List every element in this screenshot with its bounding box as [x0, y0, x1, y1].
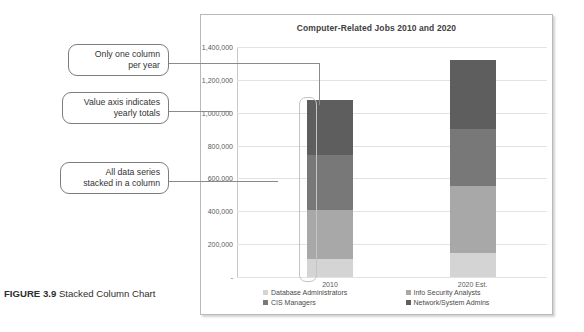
- stack-segment[interactable]: [307, 155, 353, 210]
- gridline: [237, 80, 547, 81]
- stack-segment[interactable]: [450, 186, 496, 253]
- legend-swatch: [406, 290, 411, 295]
- gridline: [237, 146, 547, 147]
- callout-1-line-2: per year: [75, 60, 160, 71]
- y-axis-tick-label: 1,400,000: [202, 44, 233, 51]
- x-axis-category-label: 2010: [322, 281, 338, 288]
- gridline: [237, 47, 547, 48]
- plot-area[interactable]: -200,000400,000600,000800,0001,000,0001,…: [237, 47, 547, 277]
- y-axis-tick-label: 200,000: [208, 241, 233, 248]
- column-2020[interactable]: [450, 60, 496, 277]
- legend-label: Network/System Admins: [414, 299, 490, 306]
- callout-3-line-2: stacked in a column: [67, 178, 160, 189]
- legend-item[interactable]: Info Security Analysts: [406, 289, 545, 296]
- chart-panel[interactable]: Computer-Related Jobs 2010 and 2020 -200…: [200, 14, 553, 315]
- stack-segment[interactable]: [307, 100, 353, 155]
- y-axis-tick-label: 400,000: [208, 208, 233, 215]
- column-2010[interactable]: [307, 100, 353, 277]
- leader-line-2: [168, 111, 230, 112]
- legend-item[interactable]: Network/System Admins: [406, 299, 545, 306]
- gridline: [237, 178, 547, 179]
- legend-swatch: [263, 300, 268, 305]
- legend-item[interactable]: Database Administrators: [263, 289, 402, 296]
- figure-caption-text: Stacked Column Chart: [59, 288, 156, 299]
- callout-2-line-2: yearly totals: [69, 108, 160, 119]
- callout-data-series-stacked: All data series stacked in a column: [60, 162, 169, 194]
- callout-3-line-1: All data series: [67, 167, 160, 178]
- x-axis-category-label: 2020 Est.: [458, 281, 488, 288]
- leader-line-3: [168, 181, 278, 182]
- legend-swatch: [406, 300, 411, 305]
- gridline: [237, 244, 547, 245]
- figure-label: FIGURE 3.9: [4, 288, 59, 299]
- chart-legend[interactable]: Database AdministratorsInfo Security Ana…: [237, 289, 544, 306]
- callout-value-axis: Value axis indicates yearly totals: [62, 92, 169, 124]
- stack-segment[interactable]: [307, 210, 353, 259]
- stack-segment[interactable]: [450, 60, 496, 129]
- callout-only-one-column: Only one column per year: [68, 44, 169, 76]
- stack-segment[interactable]: [450, 129, 496, 186]
- legend-label: CIS Managers: [271, 299, 316, 306]
- gridline: [237, 277, 547, 278]
- leader-line-1: [168, 63, 320, 64]
- gridline: [237, 113, 547, 114]
- gridline: [237, 211, 547, 212]
- callout-2-line-1: Value axis indicates: [69, 97, 160, 108]
- stack-segment[interactable]: [307, 259, 353, 277]
- figure-page: Computer-Related Jobs 2010 and 2020 -200…: [0, 0, 584, 332]
- legend-item[interactable]: CIS Managers: [263, 299, 402, 306]
- legend-swatch: [263, 290, 268, 295]
- y-axis-tick-label: 1,200,000: [202, 76, 233, 83]
- y-axis-tick-label: -: [231, 274, 233, 281]
- value-axis-line: [237, 47, 238, 277]
- y-axis-tick-label: 800,000: [208, 142, 233, 149]
- legend-label: Info Security Analysts: [414, 289, 481, 296]
- figure-caption: FIGURE 3.9 Stacked Column Chart: [4, 288, 184, 301]
- chart-title: Computer-Related Jobs 2010 and 2020: [201, 23, 552, 33]
- leader-line-1-vertical: [319, 63, 320, 105]
- stack-segment[interactable]: [450, 253, 496, 277]
- legend-label: Database Administrators: [271, 289, 347, 296]
- callout-1-line-1: Only one column: [75, 49, 160, 60]
